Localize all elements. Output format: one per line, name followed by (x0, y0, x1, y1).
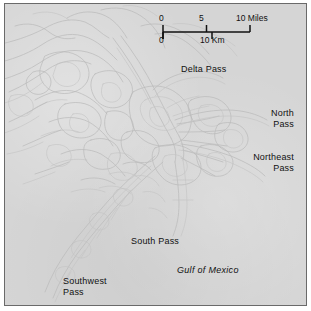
scale-bar: 0 5 10 Miles 0 10 Km (153, 14, 293, 50)
map-label-southwest-pass: Southwest Pass (63, 276, 107, 297)
scale-label-miles-mid: 5 (199, 14, 204, 23)
scale-label-miles-zero: 0 (159, 14, 164, 23)
map-figure: Delta Pass North Pass Northeast Pass Sou… (0, 0, 311, 311)
map-plate: Delta Pass North Pass Northeast Pass Sou… (4, 3, 307, 306)
scale-label-miles-max: 10 Miles (236, 14, 268, 23)
map-label-northeast-pass: Northeast Pass (253, 152, 294, 173)
map-label-delta-pass: Delta Pass (181, 64, 227, 75)
map-label-north-pass: North Pass (271, 108, 294, 129)
scale-label-km-zero: 0 (159, 36, 164, 45)
scale-label-km-max: 10 Km (200, 36, 225, 45)
map-label-gulf-of-mexico: Gulf of Mexico (177, 265, 239, 276)
map-label-south-pass: South Pass (131, 236, 179, 247)
